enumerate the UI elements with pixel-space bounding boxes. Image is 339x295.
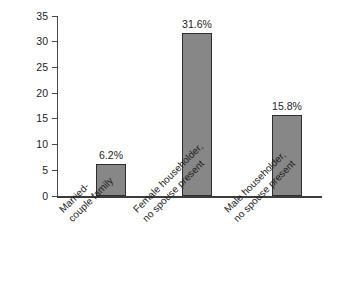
y-axis-tick-label: 25 [24,62,48,73]
y-axis-tick-label: 5 [24,165,48,176]
bar-chart: Percentage 35302520151050 6.2%31.6%15.8%… [0,0,339,295]
y-axis-line [57,16,58,197]
y-axis-tick-label: 30 [24,36,48,47]
y-axis-tick-label: 35 [24,11,48,22]
y-axis-tick-label: 20 [24,88,48,99]
bar-value-label: 6.2% [81,150,141,161]
y-axis-tick [52,144,57,145]
y-axis-tick-label: 0 [24,191,48,202]
y-axis-tick [52,67,57,68]
y-axis-tick [52,41,57,42]
y-axis-tick [52,16,57,17]
y-axis-tick [52,170,57,171]
y-axis-tick [52,118,57,119]
y-axis-tick [52,93,57,94]
y-axis-tick-label: 10 [24,139,48,150]
bar-value-label: 31.6% [167,19,227,30]
bar-value-label: 15.8% [257,101,317,112]
y-axis-tick-label: 15 [24,113,48,124]
